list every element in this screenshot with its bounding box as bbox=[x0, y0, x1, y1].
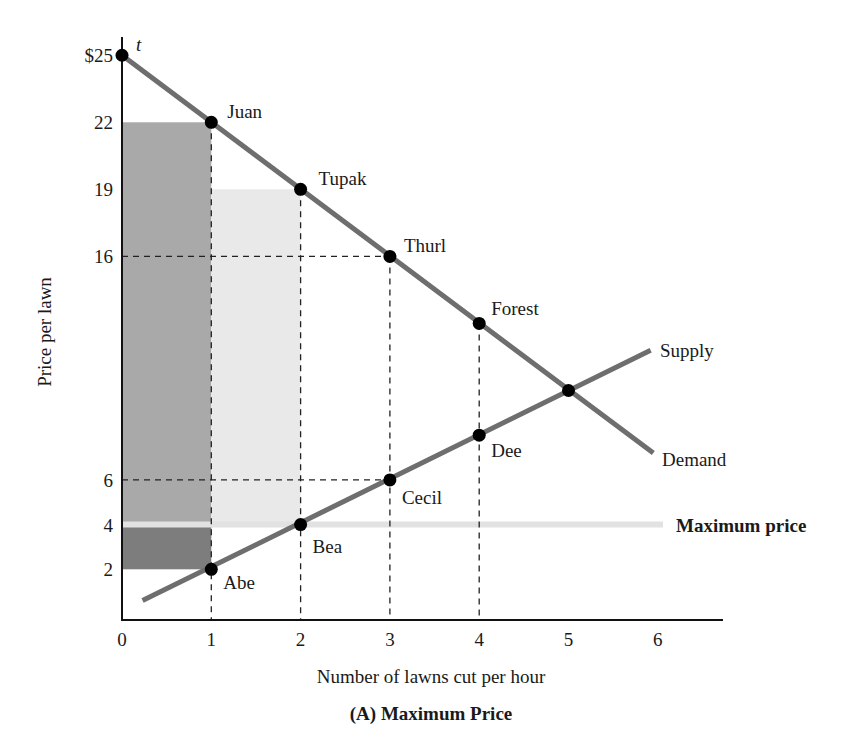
t-label: t bbox=[136, 34, 142, 55]
x-tick-label: 5 bbox=[564, 629, 574, 650]
y-tick-label: 22 bbox=[94, 112, 113, 133]
point-label-thurl: Thurl bbox=[404, 235, 446, 256]
point-label-cecil: Cecil bbox=[402, 487, 442, 508]
y-tick-label: 6 bbox=[104, 470, 114, 491]
demand-point bbox=[116, 49, 129, 62]
maximum-price-chart: 0123456$25221916642JuanTupakThurlForestA… bbox=[0, 0, 865, 753]
x-tick-label: 0 bbox=[117, 629, 127, 650]
y-tick-label: 4 bbox=[104, 515, 114, 536]
x-tick-label: 2 bbox=[296, 629, 306, 650]
point-label-juan: Juan bbox=[227, 101, 262, 122]
x-tick-label: 4 bbox=[474, 629, 484, 650]
point-label-tupak: Tupak bbox=[319, 168, 367, 189]
y-tick-label: 16 bbox=[94, 246, 113, 267]
point-label-forest: Forest bbox=[491, 298, 539, 319]
maximum-price-label: Maximum price bbox=[676, 515, 806, 536]
x-tick-label: 6 bbox=[653, 629, 663, 650]
x-tick-label: 3 bbox=[385, 629, 395, 650]
supply-label: Supply bbox=[660, 340, 714, 361]
shaded-consumer-surplus-tupak bbox=[211, 189, 300, 524]
y-tick-label: 19 bbox=[94, 179, 113, 200]
supply-point bbox=[205, 563, 218, 576]
demand-point bbox=[383, 250, 396, 263]
demand-label: Demand bbox=[662, 449, 727, 470]
supply-point bbox=[294, 518, 307, 531]
y-axis-label: Price per lawn bbox=[34, 277, 55, 387]
shaded-consumer-surplus-juan bbox=[122, 122, 211, 524]
demand-point bbox=[562, 384, 575, 397]
y-tick-label: 2 bbox=[104, 559, 114, 580]
point-label-bea: Bea bbox=[313, 536, 343, 557]
chart-caption: (A) Maximum Price bbox=[350, 703, 513, 725]
y-tick-label: $25 bbox=[85, 45, 114, 66]
supply-point bbox=[473, 429, 486, 442]
demand-point bbox=[205, 116, 218, 129]
supply-point bbox=[383, 473, 396, 486]
point-label-dee: Dee bbox=[491, 440, 522, 461]
x-axis-label: Number of lawns cut per hour bbox=[317, 666, 546, 687]
x-tick-label: 1 bbox=[207, 629, 217, 650]
demand-point bbox=[294, 183, 307, 196]
shaded-producer-surplus-abe bbox=[122, 525, 211, 570]
demand-point bbox=[473, 317, 486, 330]
point-label-abe: Abe bbox=[223, 572, 255, 593]
